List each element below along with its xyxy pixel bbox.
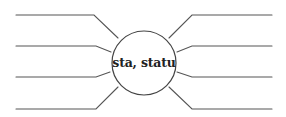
branch-line-right-4[interactable]: [169, 87, 272, 109]
branch-line-right-3[interactable]: [177, 72, 272, 77]
branch-line-left-2[interactable]: [16, 46, 111, 52]
branch-line-right-1[interactable]: [169, 15, 272, 38]
branch-line-left-3[interactable]: [16, 72, 110, 77]
center-label: sta, statu: [112, 54, 176, 72]
branch-line-left-1[interactable]: [16, 15, 118, 38]
branch-line-right-2[interactable]: [177, 46, 272, 52]
branch-line-left-4[interactable]: [16, 87, 118, 109]
